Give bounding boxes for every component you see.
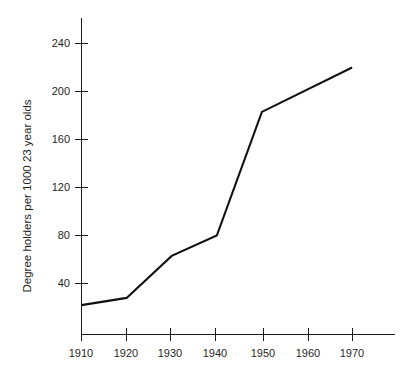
y-tick-label-80: 80 <box>58 229 70 241</box>
y-tick-label-240: 240 <box>52 37 70 49</box>
x-tick-label-1940: 1940 <box>203 347 227 359</box>
x-tick-label-1930: 1930 <box>158 347 182 359</box>
y-tick-label-120: 120 <box>52 181 70 193</box>
y-tick-label-40: 40 <box>58 277 70 289</box>
data-series-line <box>82 68 353 306</box>
x-tick-label-1920: 1920 <box>114 347 138 359</box>
y-axis-title: Degree holders per 1000 23 year olds <box>21 99 33 292</box>
chart-canvas: Degree holders per 1000 23 year olds 40 … <box>0 0 411 374</box>
x-tick-label-1960: 1960 <box>296 347 320 359</box>
x-tick-label-1970: 1970 <box>340 347 364 359</box>
y-tick-label-200: 200 <box>52 85 70 97</box>
line-chart-figure: Degree holders per 1000 23 year olds 40 … <box>0 0 411 374</box>
y-axis-tick-labels: 40 80 120 160 200 240 <box>52 37 70 289</box>
x-tick-label-1910: 1910 <box>69 347 93 359</box>
x-tick-label-1950: 1950 <box>251 347 275 359</box>
x-axis-tick-labels: 1910 1920 1930 1940 1950 1960 1970 <box>69 347 364 359</box>
y-tick-label-160: 160 <box>52 133 70 145</box>
